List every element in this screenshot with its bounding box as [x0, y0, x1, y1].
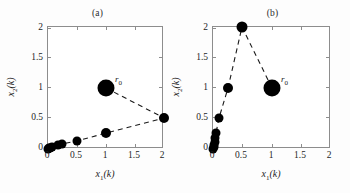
- panel-a-xticklabel-2: 1: [103, 150, 108, 160]
- panel-a-marker-3: [73, 137, 82, 146]
- panel-b-title: (b): [185, 8, 350, 18]
- panel-a-xticklabel-4: 2: [160, 150, 165, 160]
- panel-b-ytick-right-2: [326, 87, 329, 88]
- panel-b-yaxis-label: x2(k): [170, 77, 184, 96]
- panel-a-yaxis-label: x2(k): [5, 77, 19, 96]
- panel-b-yticklabel-3: 1.5: [187, 52, 208, 62]
- panel-a-xticklabel-1: 0.5: [70, 150, 82, 160]
- panel-b-yticklabel-1: 0.5: [187, 112, 208, 122]
- panel-a-yaxis-sub: 2: [11, 89, 19, 93]
- panel-b-xticklabel-4: 2: [327, 150, 332, 160]
- panel-a-marker-r0: [98, 80, 115, 97]
- panel-b-ytick-3: [213, 57, 216, 58]
- panel-b-plot-area: r0: [212, 26, 330, 148]
- panel-b-xaxis-label: x1(k): [261, 168, 280, 182]
- panel-a-xticklabel-0: 0: [45, 150, 50, 160]
- panel-a-title: (a): [10, 8, 185, 18]
- panel-b-annotation-r0: r0: [281, 74, 288, 87]
- panel-a-annotation-r0: r0: [115, 74, 122, 87]
- panel-b-xticklabel-0: 0: [210, 150, 215, 160]
- panel-a-yticklabel-4: 2: [30, 22, 43, 32]
- panel-a-marker-1: [159, 113, 169, 123]
- panel-b-marker-3: [215, 114, 224, 123]
- panel-a-xtick-top-3: [135, 27, 136, 30]
- panel-a-marker-2: [101, 128, 111, 138]
- panel-a-ytick-2: [48, 87, 51, 88]
- panel-a-ytick-3: [48, 57, 51, 58]
- panel-a-xticklabel-3: 1.5: [128, 150, 140, 160]
- panel-b-yticklabel-4: 2: [195, 22, 208, 32]
- panel-a-ytick-right-2: [159, 87, 162, 88]
- panel-a-ytick-1: [48, 117, 51, 118]
- panel-b-ytick-right-1: [326, 117, 329, 118]
- panel-b-ytick-2: [213, 87, 216, 88]
- panel-b-yaxis-base: x: [170, 92, 181, 96]
- panel-a-xtick-2: [106, 144, 107, 147]
- panel-b-xtick-2: [272, 144, 273, 147]
- panel-a-xtick-top-1: [77, 27, 78, 30]
- panel-a-xtick-top-2: [106, 27, 107, 30]
- panel-b-xticklabel-2: 1: [269, 150, 274, 160]
- panel-b-xtick-3: [301, 144, 302, 147]
- panel-a-xtick-4: [162, 144, 163, 147]
- panel-a-plot-area: r0: [47, 26, 163, 148]
- panel-b-yticklabel-0: 0: [195, 142, 208, 152]
- panel-a: (a): [0, 0, 175, 193]
- panel-b-xtick-top-2: [272, 27, 273, 30]
- panel-b-xtick-4: [329, 144, 330, 147]
- panel-a-yaxis-tail: (k): [5, 77, 16, 88]
- panel-a-xaxis-tail: (k): [103, 168, 114, 179]
- panel-b-yaxis-sub: 2: [176, 89, 184, 93]
- panel-b-xaxis-tail: (k): [269, 168, 280, 179]
- panel-b-yticklabel-2: 1: [195, 82, 208, 92]
- panel-b: (b): [175, 0, 350, 193]
- figure-canvas: (a): [0, 0, 350, 193]
- panel-a-xtick-3: [135, 144, 136, 147]
- panel-b-ytick-right-3: [326, 57, 329, 58]
- panel-b-marker-r0: [264, 80, 281, 97]
- panel-a-xaxis-label: x1(k): [95, 168, 114, 182]
- panel-a-yaxis-base: x: [5, 92, 16, 96]
- panel-a-yticklabel-3: 1.5: [22, 52, 43, 62]
- panel-b-xticklabel-1: 0.5: [235, 150, 247, 160]
- panel-a-annot-sub: 0: [119, 79, 123, 87]
- panel-a-yticklabel-0: 0: [30, 142, 43, 152]
- panel-b-annot-sub: 0: [285, 79, 289, 87]
- panel-b-xtick-1: [242, 144, 243, 147]
- panel-b-yaxis-tail: (k): [170, 77, 181, 88]
- panel-b-marker-1: [237, 22, 248, 33]
- panel-a-ytick-4: [48, 28, 51, 29]
- panel-a-yticklabel-2: 1: [30, 82, 43, 92]
- panel-a-ytick-right-3: [159, 57, 162, 58]
- panel-b-xticklabel-3: 1.5: [294, 150, 306, 160]
- panel-b-ytick-4: [213, 28, 216, 29]
- panel-a-yticklabel-1: 0.5: [22, 112, 43, 122]
- panel-b-xtick-top-3: [301, 27, 302, 30]
- panel-b-marker-2: [223, 83, 233, 93]
